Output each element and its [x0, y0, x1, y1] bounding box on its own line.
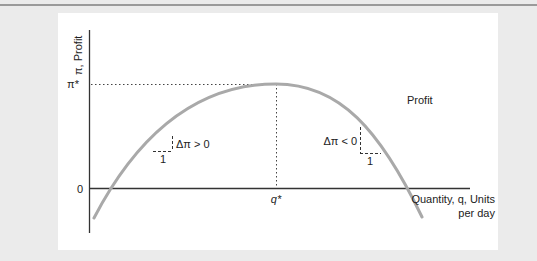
left-run-label: 1 — [160, 153, 166, 165]
pi-star-label: π* — [67, 78, 80, 90]
x-axis-label-line1: Quantity, q, Units — [411, 193, 495, 205]
y-axis-label: π, Profit — [72, 36, 84, 75]
zero-label: 0 — [77, 183, 83, 195]
profit-curve-label: Profit — [407, 94, 433, 106]
right-run-label: 1 — [367, 155, 373, 167]
profit-curve — [94, 84, 422, 218]
profit-maximization-diagram: π, Profit π* 0 q* Profit Δπ > 0 1 Δπ < 0… — [0, 0, 537, 261]
left-slope-label: Δπ > 0 — [176, 138, 210, 150]
right-slope-label: Δπ < 0 — [323, 135, 357, 147]
x-axis-label-line2: per day — [458, 207, 495, 219]
q-star-label: q* — [271, 193, 282, 205]
